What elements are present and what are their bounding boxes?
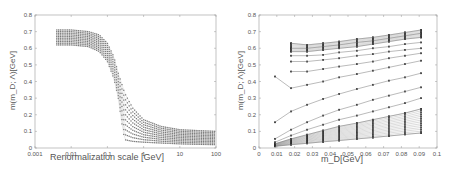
y-tick-label: 0.6 (248, 45, 257, 51)
x-tick-label: 10 (176, 151, 183, 157)
y-tick-label: 0.3 (248, 95, 257, 101)
y-tick-label: 0 (253, 145, 257, 151)
x-tick-label: 0.08 (396, 151, 408, 157)
left-plot-area: 00.10.20.30.40.50.60.70.80.0010.010.1110… (0, 0, 228, 173)
series-line (275, 87, 421, 139)
x-tick-label: 100 (211, 151, 222, 157)
right-x-axis-label: m_D[GeV] (321, 154, 363, 164)
left-chart-panel: 00.10.20.30.40.50.60.70.80.0010.010.1110… (0, 0, 228, 173)
data-band (56, 29, 215, 145)
x-tick-label: 0.1 (433, 151, 442, 157)
right-plot-area: 00.10.20.30.40.50.60.70.800.010.020.030.… (228, 0, 456, 173)
x-tick-label: 0.07 (378, 151, 390, 157)
y-tick-label: 0.7 (248, 29, 257, 35)
y-tick-label: 0.8 (248, 12, 257, 18)
left-y-axis-label: m(m_D; Λ)[GeV] (8, 41, 17, 121)
y-tick-label: 0.8 (24, 12, 33, 18)
data-lines (274, 29, 422, 147)
y-tick-label: 0.2 (248, 112, 257, 118)
x-tick-label: 0.01 (271, 151, 283, 157)
x-tick-label: 0.09 (413, 151, 425, 157)
y-tick-label: 0.3 (24, 95, 33, 101)
x-tick-label: 0.001 (27, 151, 43, 157)
y-tick-label: 0.6 (24, 45, 33, 51)
right-y-axis-label: m(m_D; Λ)[GeV] (236, 41, 245, 121)
y-tick-label: 0.4 (248, 79, 257, 85)
y-tick-label: 0.5 (248, 62, 257, 68)
series-line (275, 98, 421, 142)
y-tick-label: 0.2 (24, 112, 33, 118)
y-tick-label: 0.1 (248, 128, 257, 134)
series-line (275, 61, 421, 88)
right-chart-panel: 00.10.20.30.40.50.60.70.800.010.020.030.… (228, 0, 456, 173)
y-tick-label: 0.4 (24, 79, 33, 85)
x-tick-label: 0 (257, 151, 261, 157)
series-line (275, 73, 421, 122)
x-tick-label: 0.03 (307, 151, 319, 157)
left-x-axis-label: Renormalization scale [GeV] (50, 152, 164, 162)
y-tick-label: 0.7 (24, 29, 33, 35)
y-tick-label: 0.1 (24, 128, 33, 134)
y-tick-label: 0.5 (24, 62, 33, 68)
x-tick-label: 0.02 (289, 151, 301, 157)
